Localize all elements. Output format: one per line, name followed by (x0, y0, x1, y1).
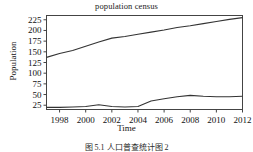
y-tick-label: 225 (28, 15, 42, 25)
series-lines (47, 18, 243, 108)
y-tick-label: 100 (28, 68, 42, 78)
y-tick-label: 175 (28, 36, 42, 46)
y-tick-label: 200 (28, 25, 42, 35)
y-tick-label: 150 (28, 47, 42, 57)
figure-caption: 图 5.1 人口普查统计图 2 (0, 143, 253, 152)
series-line-lower-series (47, 95, 243, 107)
series-line-upper-series (47, 18, 243, 58)
y-tick-label: 50 (33, 90, 43, 100)
x-axis-label: Time (0, 123, 253, 133)
y-axis-ticks: 255075100125150175200225 (28, 15, 47, 110)
y-tick-label: 125 (28, 58, 42, 68)
y-tick-label: 75 (33, 79, 43, 89)
y-tick-label: 25 (33, 100, 43, 110)
plot-frame (47, 16, 243, 110)
figure-container: population census Population 25507510012… (0, 0, 253, 152)
